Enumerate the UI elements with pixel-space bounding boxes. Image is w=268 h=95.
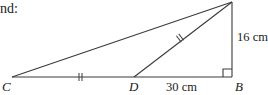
point-label-d: D	[128, 79, 139, 94]
equal-mark-da	[176, 34, 183, 42]
caption-text: nd:	[0, 1, 18, 16]
triangle-diagram: nd: C D B 30 cm 16 cm	[0, 0, 268, 95]
segment-ca	[12, 2, 232, 77]
right-angle-marker	[223, 69, 232, 77]
point-label-c: C	[2, 79, 11, 94]
point-label-b: B	[235, 79, 243, 94]
length-label-db: 30 cm	[166, 80, 197, 94]
length-label-ab: 16 cm	[237, 30, 268, 44]
